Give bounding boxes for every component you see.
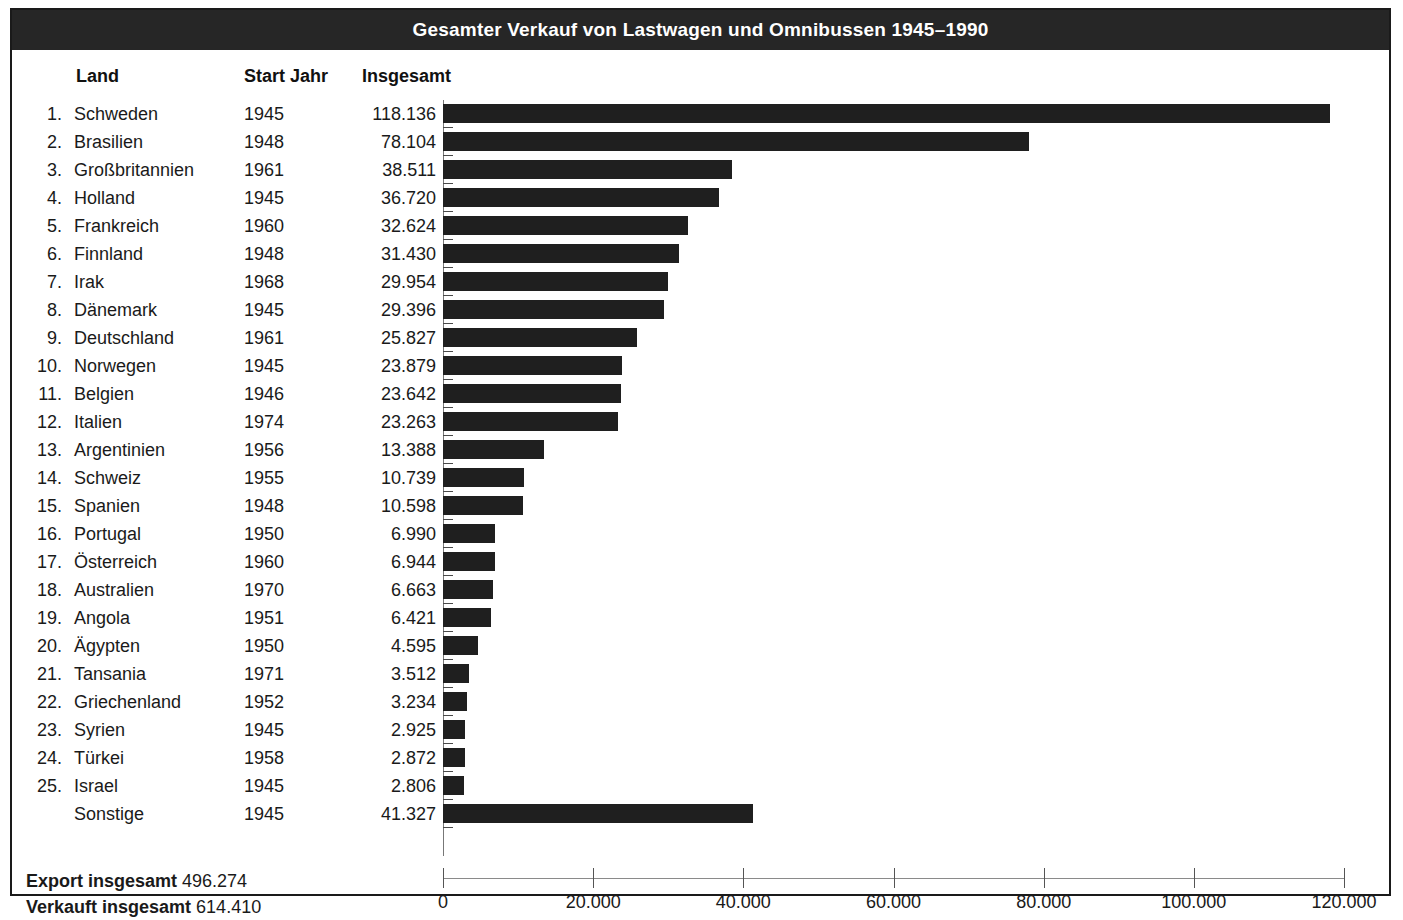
row-start-year: 1960 <box>244 212 284 240</box>
table-row: 15.Spanien194810.598 <box>12 492 1389 520</box>
bar <box>443 692 467 711</box>
row-country: Syrien <box>74 716 125 744</box>
data-rows: 1.Schweden1945118.1362.Brasilien194878.1… <box>12 100 1389 828</box>
table-row: 7.Irak196829.954 <box>12 268 1389 296</box>
row-country: Brasilien <box>74 128 143 156</box>
bar <box>443 412 618 431</box>
row-rank: 9. <box>26 324 62 352</box>
bar <box>443 132 1029 151</box>
row-total: 6.990 <box>302 520 436 548</box>
table-row: 21.Tansania19713.512 <box>12 660 1389 688</box>
row-start-year: 1961 <box>244 324 284 352</box>
table-row: 4.Holland194536.720 <box>12 184 1389 212</box>
x-axis-tick <box>1344 868 1345 888</box>
bar <box>443 384 621 403</box>
bar <box>443 496 523 515</box>
row-total: 32.624 <box>302 212 436 240</box>
row-start-year: 1945 <box>244 296 284 324</box>
sold-total-line: Verkauft insgesamt 614.410 <box>26 894 261 920</box>
table-row: 22.Griechenland19523.234 <box>12 688 1389 716</box>
row-rank: 3. <box>26 156 62 184</box>
bar-cell <box>443 744 1389 772</box>
row-rank: 19. <box>26 604 62 632</box>
row-country: Angola <box>74 604 130 632</box>
bar-cell <box>443 632 1389 660</box>
bar <box>443 608 491 627</box>
row-country: Australien <box>74 576 154 604</box>
sold-total-label: Verkauft insgesamt <box>26 897 191 917</box>
row-total: 29.954 <box>302 268 436 296</box>
x-axis-tick <box>894 868 895 888</box>
row-total: 31.430 <box>302 240 436 268</box>
table-row: 19.Angola19516.421 <box>12 604 1389 632</box>
table-row: 18.Australien19706.663 <box>12 576 1389 604</box>
row-total: 10.598 <box>302 492 436 520</box>
row-rank: 16. <box>26 520 62 548</box>
table-row: 5.Frankreich196032.624 <box>12 212 1389 240</box>
row-start-year: 1951 <box>244 604 284 632</box>
row-country: Spanien <box>74 492 140 520</box>
row-rank: 22. <box>26 688 62 716</box>
x-axis-tick-label: 80.000 <box>1016 892 1071 913</box>
table-row: 16.Portugal19506.990 <box>12 520 1389 548</box>
bar <box>443 188 719 207</box>
column-header-start-jahr: Start Jahr <box>244 66 328 87</box>
row-total: 6.421 <box>302 604 436 632</box>
row-total: 4.595 <box>302 632 436 660</box>
row-start-year: 1950 <box>244 632 284 660</box>
bar-cell <box>443 660 1389 688</box>
chart-frame: Gesamter Verkauf von Lastwagen und Omnib… <box>10 8 1391 896</box>
bar-cell <box>443 352 1389 380</box>
x-axis-tick-label: 120.000 <box>1311 892 1376 913</box>
bar-cell <box>443 184 1389 212</box>
bar <box>443 580 493 599</box>
bar-cell <box>443 408 1389 436</box>
row-country: Italien <box>74 408 122 436</box>
row-country: Portugal <box>74 520 141 548</box>
row-rank: 8. <box>26 296 62 324</box>
table-row: 11.Belgien194623.642 <box>12 380 1389 408</box>
row-total: 36.720 <box>302 184 436 212</box>
x-axis-tick-label: 60.000 <box>866 892 921 913</box>
row-rank: 4. <box>26 184 62 212</box>
row-total: 25.827 <box>302 324 436 352</box>
x-axis-tick-label: 40.000 <box>716 892 771 913</box>
row-start-year: 1945 <box>244 352 284 380</box>
table-row: 6.Finnland194831.430 <box>12 240 1389 268</box>
row-rank: 10. <box>26 352 62 380</box>
row-rank: 21. <box>26 660 62 688</box>
bar-cell <box>443 492 1389 520</box>
table-row: 14.Schweiz195510.739 <box>12 464 1389 492</box>
page-title: Gesamter Verkauf von Lastwagen und Omnib… <box>413 19 989 41</box>
bar-cell <box>443 688 1389 716</box>
row-start-year: 1946 <box>244 380 284 408</box>
row-total: 38.511 <box>302 156 436 184</box>
row-rank: 20. <box>26 632 62 660</box>
bar-cell <box>443 296 1389 324</box>
x-axis-tick <box>593 868 594 888</box>
row-country: Österreich <box>74 548 157 576</box>
totals-footer: Export insgesamt 496.274 Verkauft insges… <box>26 868 261 920</box>
export-total-value: 496.274 <box>182 871 247 891</box>
bar-cell <box>443 800 1389 828</box>
table-row: Sonstige194541.327 <box>12 800 1389 828</box>
chart-title-bar: Gesamter Verkauf von Lastwagen und Omnib… <box>12 10 1389 50</box>
x-axis-tick-label: 0 <box>438 892 448 913</box>
row-start-year: 1960 <box>244 548 284 576</box>
row-total: 2.925 <box>302 716 436 744</box>
row-total: 3.234 <box>302 688 436 716</box>
row-total: 23.642 <box>302 380 436 408</box>
row-country: Norwegen <box>74 352 156 380</box>
export-total-label: Export insgesamt <box>26 871 177 891</box>
row-country: Holland <box>74 184 135 212</box>
row-start-year: 1948 <box>244 128 284 156</box>
row-country: Deutschland <box>74 324 174 352</box>
row-rank: 12. <box>26 408 62 436</box>
row-rank: 14. <box>26 464 62 492</box>
bar <box>443 524 495 543</box>
row-start-year: 1950 <box>244 520 284 548</box>
export-total-line: Export insgesamt 496.274 <box>26 868 261 894</box>
bar-cell <box>443 716 1389 744</box>
row-country: Schweiz <box>74 464 141 492</box>
bar <box>443 216 688 235</box>
